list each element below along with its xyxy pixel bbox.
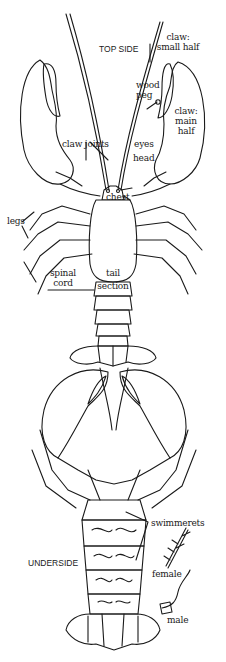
left-claw-main xyxy=(21,60,74,184)
label-claw-main-half: claw: main half xyxy=(168,106,204,136)
label-swimmerets: swimmerets xyxy=(151,518,204,528)
label-tail-section: tail section xyxy=(97,268,129,291)
top-side-heading: TOP SIDE xyxy=(99,44,138,54)
label-legs: legs xyxy=(7,216,25,226)
label-spinal-cord: spinal cord xyxy=(46,268,80,288)
label-claw-small-half: claw: small half xyxy=(148,32,208,52)
underside-heading: UNDERSIDE xyxy=(28,558,78,568)
label-eyes: eyes xyxy=(134,139,154,149)
label-wood-peg: wood peg xyxy=(136,80,160,100)
label-chest: chest xyxy=(106,192,129,202)
label-male: male xyxy=(167,615,188,625)
label-claw-joints: claw joints xyxy=(62,139,109,149)
top-view-drawing xyxy=(21,14,205,366)
label-head: head xyxy=(133,153,154,163)
label-female: female xyxy=(152,569,182,579)
underside-drawing xyxy=(32,368,196,650)
tail-fan-under xyxy=(66,614,160,650)
female-swimmeret xyxy=(164,528,190,568)
